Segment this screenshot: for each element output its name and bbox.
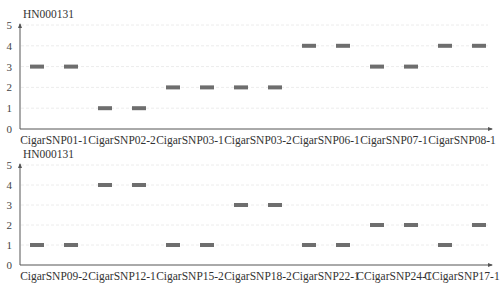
allele-bar [302,44,316,48]
category-label: CigarSNP07-1 [360,134,428,147]
y-tick-label: 5 [7,19,13,31]
allele-bar [268,85,282,89]
allele-bar [200,85,214,89]
category-label: CigarSNP03-1 [156,134,224,147]
allele-bar [64,65,78,69]
y-tick-label: 3 [7,199,13,211]
y-tick-label: 1 [7,239,13,251]
category-label: CigarSNP12-1 [88,270,156,283]
allele-bar [234,85,248,89]
allele-bar [336,44,350,48]
category-label: CigarSNP08-1 [428,134,496,147]
allele-bar [438,44,452,48]
allele-bar [132,106,146,110]
category-label: CigarSNP03-2 [224,134,292,147]
category-label: CigarSNP06-1 [292,134,360,147]
y-tick-label: 4 [7,40,13,52]
y-tick-label: 5 [7,159,13,171]
category-label: CigarSNP09-2 [20,270,88,283]
allele-bar [404,223,418,227]
allele-bar [234,203,248,207]
panel-1: 012345HN000131CigarSNP01-1CigarSNP02-2Ci… [7,8,497,147]
panel-2: 012345HN000131CigarSNP09-2CigarSNP12-1Ci… [7,148,500,283]
y-tick-label: 3 [7,61,13,73]
chart-title: HN000131 [23,8,74,20]
category-label: CigarSNP02-2 [88,134,156,147]
allele-bar [200,243,214,247]
allele-bar [370,65,384,69]
x-axis-arrow-icon [488,263,493,267]
y-tick-label: 1 [7,102,13,114]
y-tick-label: 2 [7,219,13,231]
y-tick-label: 4 [7,179,13,191]
category-label: CigarSNP01-1 [20,134,88,147]
allele-bar [404,65,418,69]
allele-bar [98,106,112,110]
allele-bar [268,203,282,207]
allele-bar [302,243,316,247]
allele-bar [30,65,44,69]
allele-bar [472,44,486,48]
allele-bar [370,223,384,227]
chart-title: HN000131 [23,148,74,160]
allele-bar [30,243,44,247]
category-label: CCigarSNP17-1 [424,270,500,283]
allele-bar [438,243,452,247]
allele-bar [166,85,180,89]
allele-bar [472,223,486,227]
allele-bar [132,183,146,187]
y-tick-label: 0 [7,123,13,135]
allele-bar [336,243,350,247]
x-axis-arrow-icon [488,127,493,131]
allele-bar [166,243,180,247]
genotype-chart: 012345HN000131CigarSNP01-1CigarSNP02-2Ci… [0,0,503,291]
y-tick-label: 0 [7,259,13,271]
category-label: CCigarSNP24-1 [356,270,432,283]
y-tick-label: 2 [7,81,13,93]
category-label: CigarSNP15-2 [156,270,224,283]
category-label: CigarSNP18-2 [224,270,292,283]
allele-bar [98,183,112,187]
category-label: CigarSNP22-1 [292,270,360,283]
allele-bar [64,243,78,247]
